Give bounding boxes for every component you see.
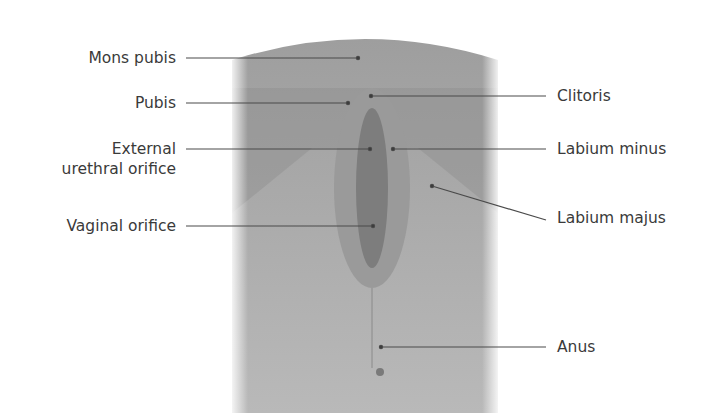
label-external-urethral-orifice: External urethral orifice [62, 139, 176, 179]
label-vaginal-orifice: Vaginal orifice [66, 216, 176, 236]
label-clitoris: Clitoris [557, 86, 611, 106]
label-pubis: Pubis [135, 93, 176, 113]
leader-labium-majus [432, 186, 546, 220]
label-line-1: External [62, 139, 176, 159]
label-labium-minus: Labium minus [557, 139, 666, 159]
anatomy-figure: Mons pubis Pubis External urethral orifi… [0, 0, 715, 420]
label-mons-pubis: Mons pubis [88, 48, 176, 68]
label-anus: Anus [557, 337, 595, 357]
label-line-2: urethral orifice [62, 159, 176, 179]
label-labium-majus: Labium majus [557, 208, 666, 228]
